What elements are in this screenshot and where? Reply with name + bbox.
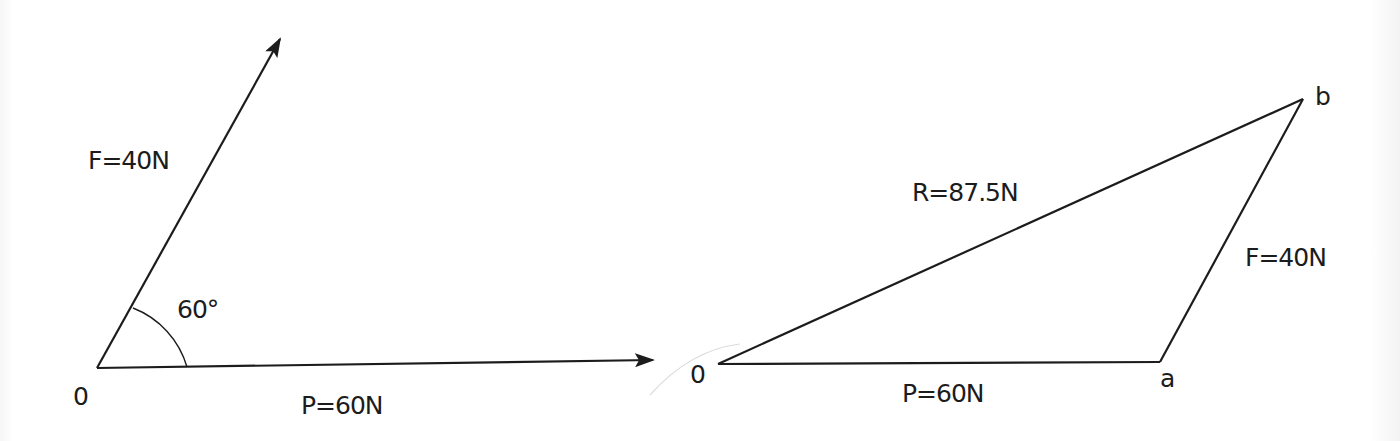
origin-label-left: 0 xyxy=(73,384,88,409)
triangle-resultant-r xyxy=(718,99,1303,364)
resultant-label: R=87.5N xyxy=(912,180,1018,205)
point-a-label: a xyxy=(1160,366,1174,391)
origin-label-right: 0 xyxy=(690,362,705,387)
diagram-canvas: F=40N 60° 0 P=60N 0 P=60N a R=87.5N F=40… xyxy=(0,0,1400,441)
force-p-label: P=60N xyxy=(301,393,383,418)
force-triangle xyxy=(718,99,1303,364)
point-b-label: b xyxy=(1315,84,1330,109)
force-f-label: F=40N xyxy=(88,148,169,173)
side-f-label: F=40N xyxy=(1245,245,1326,270)
angle-label: 60° xyxy=(177,297,218,322)
triangle-side-f xyxy=(1160,99,1303,362)
force-p-vector-arrow xyxy=(97,360,653,368)
triangle-side-p xyxy=(718,362,1160,364)
side-p-label: P=60N xyxy=(902,381,984,406)
